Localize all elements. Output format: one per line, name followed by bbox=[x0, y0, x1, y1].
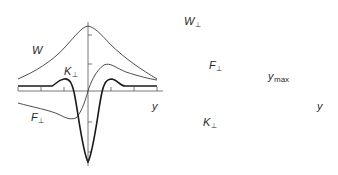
left-x-ticks bbox=[18, 87, 157, 91]
left-label-K-sub: ⊥ bbox=[72, 71, 78, 78]
right-label-K-perp: K⊥ bbox=[203, 117, 217, 129]
left-label-W: W bbox=[32, 45, 42, 56]
right-label-F-sub: ⊥ bbox=[216, 65, 222, 72]
left-label-F-main: F bbox=[31, 111, 38, 123]
left-label-F-perp: F⊥ bbox=[31, 112, 44, 124]
left-curve-K-perp bbox=[18, 64, 157, 119]
right-label-W-main: W bbox=[184, 15, 194, 27]
right-label-K-main: K bbox=[203, 116, 210, 128]
left-label-K-perp: K⊥ bbox=[64, 66, 78, 78]
right-label-ymax-main: y bbox=[268, 70, 274, 82]
right-label-ymax-sub: max bbox=[274, 75, 289, 84]
right-label-y-max: ymax bbox=[268, 71, 289, 84]
left-label-K-main: K bbox=[64, 65, 71, 77]
left-y-ticks bbox=[88, 35, 92, 152]
left-label-y-axis: y bbox=[152, 101, 158, 112]
right-label-y-axis: y bbox=[317, 101, 323, 112]
right-label-W-sub: ⊥ bbox=[195, 21, 201, 28]
left-label-y-text: y bbox=[152, 100, 158, 112]
left-label-W-text: W bbox=[32, 44, 42, 56]
right-label-y-text: y bbox=[317, 100, 323, 112]
right-label-F-perp: F⊥ bbox=[209, 60, 222, 72]
right-label-W-perp: W⊥ bbox=[184, 16, 201, 28]
left-label-F-sub: ⊥ bbox=[38, 117, 44, 124]
diagram-canvas bbox=[0, 0, 338, 175]
right-label-F-main: F bbox=[209, 59, 216, 71]
right-label-K-sub: ⊥ bbox=[211, 122, 217, 129]
